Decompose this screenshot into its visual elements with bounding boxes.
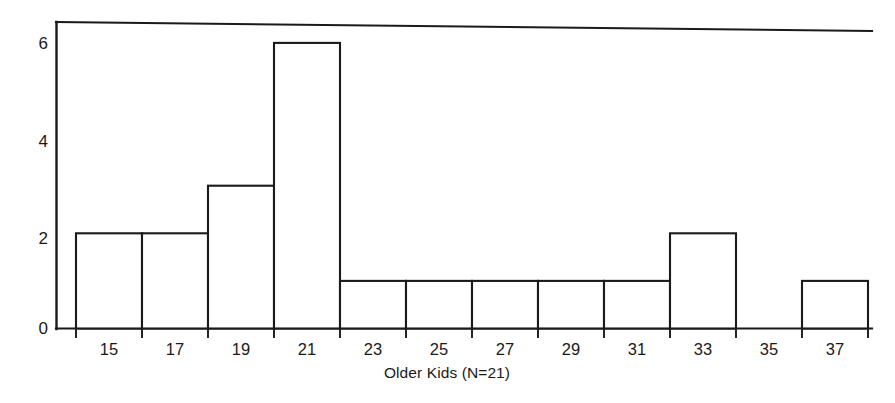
x-tick-label: 21 <box>277 341 337 358</box>
y-tick-label-4: 4 <box>22 133 48 150</box>
y-tick-label-2: 2 <box>22 230 48 247</box>
histogram-figure: 0 2 4 6 151719212325272931333537 Older K… <box>0 0 895 403</box>
histogram-bar <box>274 43 340 329</box>
histogram-bar <box>406 281 472 329</box>
x-tick-label: 19 <box>211 341 271 358</box>
histogram-bar <box>538 281 604 329</box>
x-tick-label: 33 <box>673 341 733 358</box>
x-tick-label: 31 <box>607 341 667 358</box>
histogram-bar <box>142 233 208 328</box>
x-tick-label: 25 <box>409 341 469 358</box>
histogram-bars <box>76 43 868 329</box>
x-tick-label: 37 <box>805 341 865 358</box>
x-tick-label: 17 <box>145 341 205 358</box>
histogram-bar <box>208 186 274 329</box>
histogram-bar <box>472 281 538 329</box>
frame-top-rule <box>56 22 872 31</box>
x-tick-label: 27 <box>475 341 535 358</box>
x-axis-label: Older Kids (N=21) <box>247 365 647 381</box>
x-tick-label: 29 <box>541 341 601 358</box>
histogram-bar <box>340 281 406 329</box>
histogram-bar <box>802 281 868 329</box>
x-tick-label: 15 <box>79 341 139 358</box>
y-tick-label-0: 0 <box>22 320 48 337</box>
x-tick-label: 35 <box>739 341 799 358</box>
histogram-bar <box>670 233 736 328</box>
y-tick-label-6: 6 <box>22 35 48 52</box>
x-tick-label: 23 <box>343 341 403 358</box>
histogram-bar <box>76 233 142 328</box>
histogram-bar <box>604 281 670 329</box>
